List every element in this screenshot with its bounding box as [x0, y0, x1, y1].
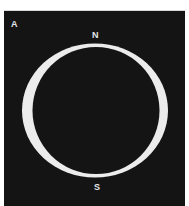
- inner-disk: [33, 47, 160, 174]
- panel-label: A: [11, 20, 18, 29]
- south-label: S: [94, 183, 100, 192]
- north-label: N: [92, 31, 99, 40]
